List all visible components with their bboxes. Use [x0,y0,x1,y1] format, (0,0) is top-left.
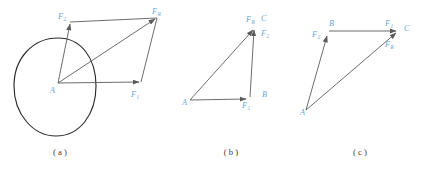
label-a-FR: F R [151,7,162,17]
panel-c: B F 2 F 1 C F R A ( c ) [299,19,410,157]
label-c-F1: F 1 [384,19,394,29]
panel-b: F R C F 2 A B F 1 ( b ) [181,14,270,157]
label-c-A: A [299,108,306,117]
label-b-FR-sub: R [251,19,256,25]
label-a-F1-sub: 1 [137,94,140,100]
label-c-F2: F 2 [311,30,321,40]
label-b-C: C [261,14,267,23]
label-b-A: A [181,98,188,107]
label-b-F2: F 2 [260,29,270,39]
vector-a-F2 [58,24,70,83]
label-b-FR: F R [245,15,256,25]
label-b-F1: F 1 [241,101,251,111]
vector-b-F2 [250,30,254,97]
vector-a-FR [58,19,155,83]
label-c-FR-sub: R [390,44,395,50]
figure-canvas: F 2 F R A F 1 ( a ) F R C [0,0,427,171]
label-b-F1-sub: 1 [248,105,251,111]
label-c-F1-sub: 1 [391,23,394,29]
vector-c-FR [306,33,396,110]
label-b-B: B [262,90,267,99]
vector-a-F1 [58,82,139,83]
vector-b-FR [190,30,253,100]
label-c-B: B [329,19,334,28]
label-a-A: A [49,86,56,95]
label-b-F2-sub: 2 [267,33,270,39]
label-c-C: C [404,24,410,33]
caption-c: ( c ) [353,147,367,157]
parallelogram-side-top [70,18,157,22]
vector-b-F1 [190,99,246,100]
panel-a: F 2 F R A F 1 ( a ) [14,7,162,157]
force-diagram-figure: F 2 F R A F 1 ( a ) F R C [0,0,427,171]
label-a-FR-sub: R [157,11,162,17]
label-c-FR: F R [384,40,395,50]
label-a-F2-sub: 2 [64,16,67,22]
label-a-F2: F 2 [57,12,67,22]
caption-b: ( b ) [224,147,238,157]
caption-a: ( a ) [53,147,67,157]
label-c-F2-sub: 2 [318,34,321,40]
vector-c-F2 [306,36,327,110]
label-a-F1: F 1 [130,90,140,100]
parallelogram-side-right [141,18,157,82]
